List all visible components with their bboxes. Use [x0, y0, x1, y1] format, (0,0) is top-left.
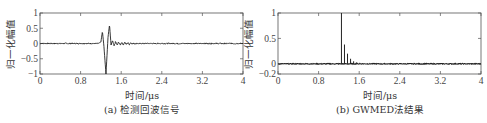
y-tick-label: 0: [271, 59, 276, 69]
x-tick-label: 2.4: [394, 76, 406, 86]
x-tick-label: 4: [479, 76, 484, 86]
x-tick-label: 0: [276, 76, 281, 86]
y-tick-label: 1: [271, 8, 276, 18]
x-tick-label: 1.6: [115, 76, 127, 86]
y-tick-label: 0.5: [26, 24, 38, 34]
x-tick-label: 0.8: [313, 76, 325, 86]
plot-area-b: [278, 13, 481, 74]
y-tick-label: 0: [33, 39, 38, 49]
x-tick-label: 1.6: [353, 76, 365, 86]
figure: −1−0.500.51 00.81.62.43.24 归一化幅值 时间/μs (…: [0, 0, 487, 123]
y-tick-label: −0.5: [21, 54, 38, 64]
x-tick-label: 3.2: [196, 76, 208, 86]
x-axis-label-b: 时间/μs: [363, 90, 397, 101]
y-axis-label-a: 归一化幅值: [5, 19, 16, 69]
x-tick-label: 2.4: [156, 76, 168, 86]
y-tick-label: 1: [33, 8, 38, 18]
series-b: [278, 13, 481, 64]
series-a: [40, 26, 243, 74]
x-axis-label-a: 时间/μs: [125, 90, 159, 101]
y-axis-label-b: 归一化幅值: [243, 19, 254, 69]
x-tick-label: 4: [241, 76, 246, 86]
x-ticks-b: 00.81.62.43.24: [276, 13, 484, 86]
caption-b: (b) GWMED法结果: [336, 104, 424, 115]
y-tick-label: −0.2: [259, 69, 276, 79]
caption-a: (a) 检测回波信号: [104, 104, 180, 115]
x-tick-label: 3.2: [434, 76, 446, 86]
x-ticks-a: 00.81.62.43.24: [38, 13, 246, 86]
y-ticks-b: −0.200.51: [259, 8, 481, 79]
chart-panel-b: −0.200.51 00.81.62.43.24 归一化幅值 时间/μs (b)…: [243, 8, 484, 115]
chart-panel-a: −1−0.500.51 00.81.62.43.24 归一化幅值 时间/μs (…: [5, 8, 246, 115]
x-tick-label: 0: [38, 76, 43, 86]
series-line-echo: [40, 26, 243, 74]
series-baseline-GWMED: [278, 63, 481, 64]
x-tick-label: 0.8: [75, 76, 87, 86]
y-tick-label: 0.5: [264, 34, 276, 44]
